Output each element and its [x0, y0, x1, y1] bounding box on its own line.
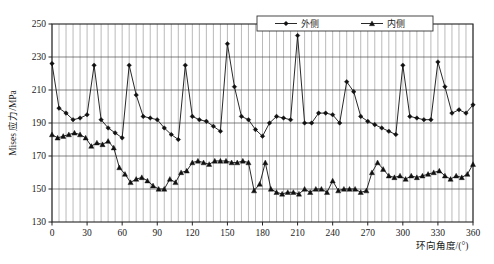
axis-tick-label: 360 [466, 228, 481, 238]
axis-title: Mises 应力/MPa [7, 89, 18, 155]
mises-stress-line-chart: 1301501701902102302500306090120150180210… [0, 0, 494, 264]
axis-tick-label: 60 [117, 228, 127, 238]
axis-tick-label: 240 [326, 228, 341, 238]
axis-tick-label: 330 [431, 228, 446, 238]
axis-tick-label: 170 [32, 151, 47, 161]
axis-tick-label: 120 [185, 228, 200, 238]
chart-container: 1301501701902102302500306090120150180210… [0, 0, 494, 264]
axis-tick-label: 90 [153, 228, 163, 238]
axis-tick-label: 270 [361, 228, 376, 238]
axis-tick-label: 150 [32, 184, 47, 194]
axis-tick-label: 180 [255, 228, 270, 238]
axis-tick-label: 230 [32, 52, 47, 62]
axis-title: 环向角度/(°) [416, 240, 469, 252]
legend-label: 内侧 [387, 18, 405, 29]
legend-label: 外侧 [301, 18, 319, 29]
axis-tick-label: 210 [290, 228, 305, 238]
axis-tick-label: 250 [32, 19, 47, 29]
axis-tick-label: 30 [82, 228, 92, 238]
axis-tick-label: 210 [32, 85, 47, 95]
axis-tick-label: 130 [32, 217, 47, 227]
axis-tick-label: 0 [50, 228, 55, 238]
axis-tick-label: 150 [220, 228, 235, 238]
axis-tick-label: 190 [32, 118, 47, 128]
axis-tick-label: 300 [396, 228, 411, 238]
